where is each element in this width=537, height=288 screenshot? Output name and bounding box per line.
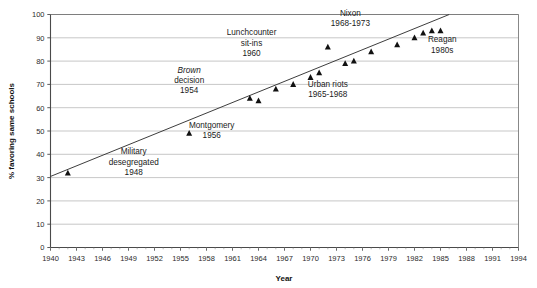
annotation-line: 1956	[203, 131, 222, 140]
y-tick-label-60: 60	[36, 104, 44, 113]
x-tick-label-1943: 1943	[68, 254, 85, 263]
y-tick-label-50: 50	[36, 127, 44, 136]
x-tick-label-1979: 1979	[380, 254, 397, 263]
annotation-line: 1960	[242, 49, 261, 58]
y-tick-label-10: 10	[36, 220, 44, 229]
y-tick-label-30: 30	[36, 174, 44, 183]
x-axis-title: Year	[276, 274, 293, 283]
x-tick-label-1991: 1991	[484, 254, 501, 263]
x-tick-label-1985: 1985	[432, 254, 449, 263]
x-tick-label-1958: 1958	[198, 254, 215, 263]
chart-container: 1940194319461949195219551958196119641967…	[0, 0, 537, 288]
x-tick-label-1970: 1970	[302, 254, 319, 263]
annotation-line: Lunchcounter	[227, 28, 277, 37]
annotation-line: Military	[121, 147, 148, 156]
annotation-line: sit-ins	[241, 39, 262, 48]
x-tick-label-1955: 1955	[172, 254, 189, 263]
annotation-reagan: Reagan1980s	[428, 35, 457, 54]
annotation-line: 1980s	[431, 46, 453, 55]
x-tick-label-1952: 1952	[146, 254, 163, 263]
y-axis-title: % favoring same schools	[7, 82, 16, 179]
x-tick-label-1967: 1967	[276, 254, 293, 263]
y-tick-label-40: 40	[36, 150, 44, 159]
annotation-urban-riots: Urban riots1965-1968	[308, 80, 348, 99]
annotation-line: 1954	[180, 86, 199, 95]
y-tick-label-70: 70	[36, 80, 44, 89]
x-tick-label-1982: 1982	[406, 254, 423, 263]
x-tick-label-1988: 1988	[458, 254, 475, 263]
y-tick-label-100: 100	[32, 10, 45, 19]
annotation-line: Brown	[178, 66, 202, 75]
x-tick-label-1973: 1973	[328, 254, 345, 263]
y-tick-label-80: 80	[36, 57, 44, 66]
annotation-line: 1965-1968	[308, 90, 348, 99]
annotation-line: decision	[174, 76, 204, 85]
x-tick-label-1961: 1961	[224, 254, 241, 263]
annotation-line: Urban riots	[308, 80, 348, 89]
annotation-line: desegregated	[109, 158, 160, 167]
x-tick-label-1949: 1949	[120, 254, 137, 263]
annotation-line: Reagan	[428, 35, 457, 44]
x-tick-label-1964: 1964	[250, 254, 267, 263]
annotation-line: 1968-1973	[331, 19, 371, 28]
x-tick-label-1994: 1994	[510, 254, 527, 263]
annotation-line: 1948	[125, 168, 144, 177]
annotation-line: Nixon	[340, 9, 361, 18]
y-tick-label-0: 0	[40, 243, 44, 252]
x-tick-label-1946: 1946	[94, 254, 111, 263]
y-tick-label-90: 90	[36, 34, 44, 43]
x-tick-label-1976: 1976	[354, 254, 371, 263]
x-tick-label-1940: 1940	[42, 254, 59, 263]
scatter-chart: 1940194319461949195219551958196119641967…	[0, 0, 537, 288]
y-tick-label-20: 20	[36, 197, 44, 206]
annotation-line: Montgomery	[189, 121, 235, 130]
